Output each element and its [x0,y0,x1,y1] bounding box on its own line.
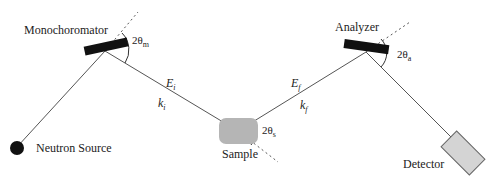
incident-wavevector-label: ki [158,96,166,112]
final-energy-label: Ef [291,76,301,92]
neutron-source-icon [10,141,24,155]
monochromator-angle-arc [122,33,129,63]
analyzer-angle-label: 2θa [397,48,411,63]
subscript: f [298,83,300,92]
angle-subscript: m [143,40,149,49]
beam-analyzer-to-detector [366,52,452,138]
sample-label: Sample [222,147,258,162]
subscript: f [305,105,307,114]
subscript: i [173,83,175,92]
angle-subscript: s [273,130,276,139]
angle-symbol: 2θ [132,34,143,46]
final-wavevector-label: kf [300,98,308,114]
sample-block [219,118,258,144]
monochromator-crystal [84,38,129,56]
angle-symbol: 2θ [262,124,273,136]
incident-energy-label: Ei [166,76,176,92]
beam-sample-to-analyzer [238,52,366,131]
angle-subscript: a [408,54,412,63]
subscript: i [163,103,165,112]
neutron-source-label: Neutron Source [36,141,112,156]
monochromator-angle-label: 2θm [132,34,149,49]
analyzer-label: Analyzer [335,20,379,35]
angle-symbol: 2θ [397,48,408,60]
detector-label: Detector [403,157,444,172]
detector-box [441,131,485,175]
sample-angle-label: 2θs [262,124,276,139]
monochromator-label: Monochoromator [24,23,108,38]
beam-source-to-monochromator [17,51,105,147]
